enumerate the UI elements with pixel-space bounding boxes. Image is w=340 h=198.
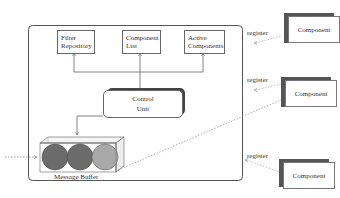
component-box-3: Component xyxy=(283,162,335,189)
control-unit: Control Unit xyxy=(103,90,183,118)
component-box-1: Component xyxy=(288,16,340,43)
message-buffer-label: Message Buffer xyxy=(54,173,98,181)
register-label-1: register xyxy=(247,29,268,37)
message-ball-icon xyxy=(42,144,68,170)
component-list-label: Component xyxy=(126,34,159,42)
component-box-2: Component xyxy=(285,80,337,107)
message-ball-icon xyxy=(92,144,118,170)
message-ball-icon xyxy=(67,144,93,170)
filter-repository-label: Filter xyxy=(61,34,92,42)
filter-repository-label-2: Repository xyxy=(61,42,92,50)
active-components-label-2: Components xyxy=(188,42,223,50)
message-buffer xyxy=(40,137,124,172)
filter-repository-box: Filter Repository xyxy=(57,30,95,54)
control-unit-label-2: Unit xyxy=(104,104,182,114)
active-components-box: Active Components xyxy=(184,30,225,54)
component-list-box: Component List xyxy=(122,30,161,54)
register-label-2: register xyxy=(247,76,268,84)
control-unit-label: Control xyxy=(104,91,182,104)
component-list-label-2: List xyxy=(126,42,159,50)
active-components-label: Active xyxy=(188,34,223,42)
register-label-3: register xyxy=(247,152,268,160)
